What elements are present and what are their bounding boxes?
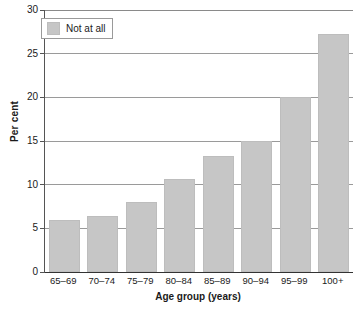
- y-tick-label-30: 30: [14, 5, 38, 15]
- bar-100+: [318, 34, 349, 272]
- y-tick-label-25: 25: [14, 49, 38, 59]
- x-tick-label-1: 70–74: [83, 275, 122, 286]
- bar-70-74: [87, 216, 118, 272]
- legend-swatch-not-at-all: [47, 22, 60, 35]
- plot-area: [44, 10, 353, 273]
- x-tick-label-2: 75–79: [121, 275, 160, 286]
- x-tick-label-4: 85–89: [198, 275, 237, 286]
- bar-95-99: [280, 97, 311, 272]
- y-axis-tick-labels: 051015202530: [14, 0, 38, 312]
- y-tick-label-0: 0: [14, 267, 38, 277]
- y-tick-label-15: 15: [14, 136, 38, 146]
- x-tick-label-3: 80–84: [160, 275, 199, 286]
- x-tick-label-5: 90–94: [237, 275, 276, 286]
- bar-65-69: [49, 220, 80, 272]
- bar-90-94: [241, 141, 272, 272]
- bar-series-not-at-all: [45, 10, 353, 272]
- legend-label-not-at-all: Not at all: [66, 23, 105, 34]
- x-axis-tick-labels: 65–6970–7475–7980–8485–8990–9495–99100+: [44, 275, 352, 291]
- y-tick-label-20: 20: [14, 92, 38, 102]
- bar-75-79: [126, 202, 157, 272]
- x-axis-title: Age group (years): [44, 291, 352, 302]
- bar-80-84: [164, 179, 195, 272]
- y-tick-label-5: 5: [14, 223, 38, 233]
- x-tick-label-6: 95–99: [275, 275, 314, 286]
- x-tick-label-7: 100+: [314, 275, 353, 286]
- bar-85-89: [203, 156, 234, 272]
- legend: Not at all: [41, 18, 113, 39]
- x-tick-label-0: 65–69: [44, 275, 83, 286]
- y-tick-label-10: 10: [14, 180, 38, 190]
- bar-chart: Per cent 051015202530 65–6970–7475–7980–…: [0, 0, 359, 312]
